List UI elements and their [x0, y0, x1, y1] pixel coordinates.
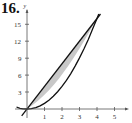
- x-axis-arrow-icon: [125, 108, 129, 111]
- chart: y 15 12 9 6 3 1 2 3 4 5: [0, 0, 132, 123]
- x-tick-label-4: 4: [95, 113, 99, 121]
- x-tick-label-5: 5: [113, 113, 117, 121]
- y-axis-label: y: [23, 3, 27, 9]
- x-tick-label-2: 2: [60, 113, 64, 121]
- y-tick-label-3: 3: [18, 89, 22, 97]
- y-tick-label-15: 15: [14, 21, 22, 29]
- x-tick-label-1: 1: [43, 113, 47, 121]
- y-tick-label-12: 12: [14, 38, 22, 46]
- line-curve: [22, 14, 101, 116]
- parabola-curve: [17, 14, 99, 109]
- y-axis-arrow-icon: [26, 9, 29, 13]
- y-tick-label-9: 9: [18, 55, 22, 63]
- x-tick-label-3: 3: [78, 113, 82, 121]
- y-tick-label-6: 6: [18, 72, 22, 80]
